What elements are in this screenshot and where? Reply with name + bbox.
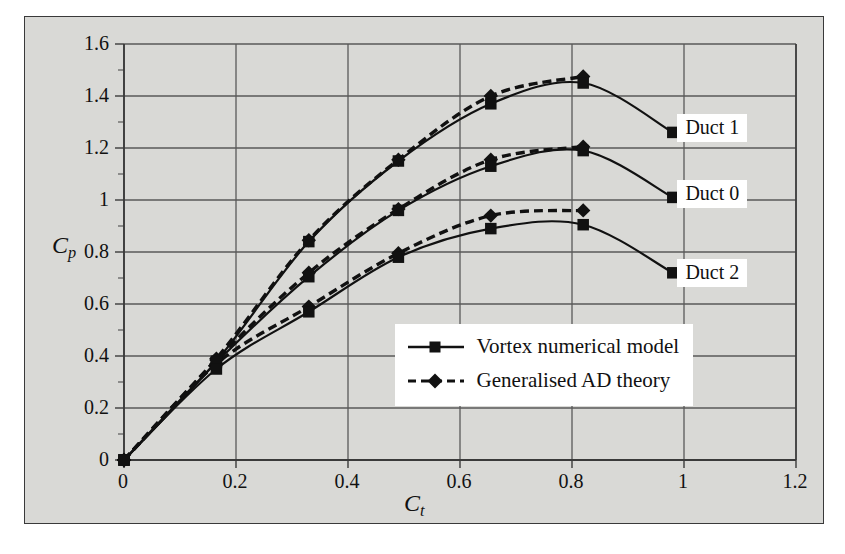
legend-swatch-dashed-diamond-icon xyxy=(407,372,465,390)
x-tick-label: 0.4 xyxy=(335,470,360,493)
data-marker-square xyxy=(303,306,315,318)
legend-item-generalised-ad-theory: Generalised AD theory xyxy=(407,364,680,398)
x-tick-label: 0.6 xyxy=(447,470,472,493)
markers-duct-0-solid xyxy=(118,145,678,466)
data-marker-diamond xyxy=(576,203,590,217)
legend-item-vortex-numerical-model: Vortex numerical model xyxy=(407,330,680,364)
data-marker-square xyxy=(485,160,497,172)
data-marker-square xyxy=(485,98,497,110)
data-marker-square xyxy=(393,205,405,217)
data-marker-square xyxy=(485,223,497,235)
annotation-duct-2: Duct 2 xyxy=(677,259,747,287)
y-tick-label: 0.6 xyxy=(84,292,109,315)
y-tick-label: 0.2 xyxy=(84,396,109,419)
x-tick-label: 1 xyxy=(678,470,688,493)
data-marker-square xyxy=(393,155,405,167)
legend-label: Generalised AD theory xyxy=(477,368,671,393)
x-tick-label: 0.2 xyxy=(223,470,248,493)
x-axis-label: Ct xyxy=(404,490,425,521)
y-tick-label: 1.2 xyxy=(84,136,109,159)
data-marker-square xyxy=(393,251,405,263)
y-tick-label: 0 xyxy=(99,448,109,471)
chart-legend: Vortex numerical model Generalised AD th… xyxy=(395,324,694,406)
y-tick-label: 1 xyxy=(99,188,109,211)
legend-label: Vortex numerical model xyxy=(477,334,680,359)
y-tick-label: 0.8 xyxy=(84,240,109,263)
data-marker-square xyxy=(577,77,589,89)
annotation-duct-1: Duct 1 xyxy=(677,114,747,142)
data-marker-square xyxy=(303,271,315,283)
y-tick-label: 1.4 xyxy=(84,84,109,107)
data-marker-square xyxy=(303,236,315,248)
y-tick-label: 1.6 xyxy=(84,32,109,55)
x-tick-label: 0.8 xyxy=(559,470,584,493)
annotation-duct-0: Duct 0 xyxy=(677,180,747,208)
x-tick-label: 0 xyxy=(118,470,128,493)
legend-swatch-solid-square-icon xyxy=(407,338,465,356)
series-duct-0-dashed xyxy=(124,147,583,460)
data-marker-diamond xyxy=(484,208,498,222)
data-marker-square xyxy=(211,363,223,375)
data-marker-square xyxy=(118,454,130,466)
y-tick-label: 0.4 xyxy=(84,344,109,367)
data-marker-square xyxy=(577,145,589,157)
data-marker-square xyxy=(577,219,589,231)
x-tick-label: 1.2 xyxy=(783,470,808,493)
y-axis-label: Cp xyxy=(52,232,76,263)
figure-chart-cp-vs-ct: Cp Ct 00.20.40.60.811.2 00.20.40.60.811.… xyxy=(0,0,845,554)
